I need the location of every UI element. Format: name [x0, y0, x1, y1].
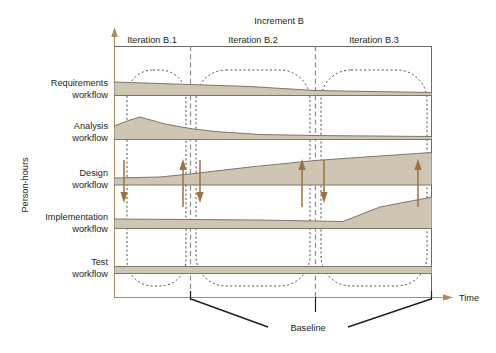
band-analysis-workflow — [114, 117, 432, 140]
band-requirements-workflow — [114, 82, 432, 96]
y-axis-label: Person-hours — [20, 157, 30, 213]
baseline-markers — [191, 291, 432, 327]
workflow-label-design-line2: workflow — [71, 180, 108, 190]
workflow-label-design-line1: Design — [79, 168, 108, 178]
uml-increment-workflow-diagram: Increment B Iteration B.1 Iteration B.2 … — [0, 0, 496, 353]
workflow-label-test-line1: Test — [91, 257, 108, 267]
diagram-title: Increment B — [254, 16, 304, 26]
baseline-leader-left — [191, 299, 268, 327]
baseline-label: Baseline — [290, 323, 325, 333]
workflow-bands — [114, 82, 432, 274]
iteration-label-b2: Iteration B.2 — [228, 35, 278, 45]
iteration-label-b3: Iteration B.3 — [349, 35, 399, 45]
workflow-label-analysis-line1: Analysis — [74, 121, 109, 131]
workflow-label-requirements-line2: workflow — [71, 90, 108, 100]
band-design-workflow — [114, 153, 432, 186]
x-axis — [114, 294, 453, 300]
x-axis-label: Time — [459, 293, 479, 303]
workflow-label-implementation-line1: Implementation — [45, 212, 108, 222]
workflow-label-implementation-line2: workflow — [71, 224, 108, 234]
workflow-label-test-line2: workflow — [71, 269, 108, 279]
workflow-label-requirements-line1: Requirements — [51, 78, 109, 88]
iteration-label-b1: Iteration B.1 — [127, 35, 177, 45]
diagram-canvas: Increment B Iteration B.1 Iteration B.2 … — [0, 0, 496, 353]
workflow-label-analysis-line2: workflow — [71, 133, 108, 143]
baseline-leader-right — [348, 299, 431, 327]
y-axis — [111, 27, 117, 298]
band-implementation-workflow — [114, 197, 432, 229]
band-test-workflow — [114, 267, 432, 274]
